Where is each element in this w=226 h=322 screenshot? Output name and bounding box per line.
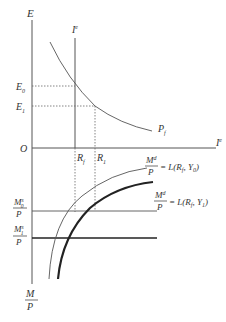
e0-label: E0 bbox=[15, 81, 25, 94]
svg-text:P: P bbox=[147, 167, 154, 177]
r1-label: R1 bbox=[96, 152, 106, 165]
e-axis-label: E bbox=[26, 7, 34, 19]
exchange-rate-money-market-diagram: E O Ie Ie E0 E1 Rf R1 Pf Md P = L(Rf, Y0… bbox=[0, 0, 226, 322]
ie-line-label: Ie bbox=[71, 24, 78, 35]
ms0-label: Ms0 P bbox=[13, 197, 27, 219]
svg-text:= L(Rf, Y1): = L(Rf, Y1) bbox=[169, 197, 208, 208]
origin-label: O bbox=[20, 143, 27, 154]
svg-text:P: P bbox=[15, 209, 22, 219]
mp-axis-label: M P bbox=[25, 288, 38, 312]
pf-curve bbox=[50, 42, 152, 131]
svg-text:Md: Md bbox=[154, 190, 167, 200]
svg-text:Ms0: Ms0 bbox=[13, 197, 24, 209]
svg-text:P: P bbox=[15, 237, 22, 247]
svg-text:P: P bbox=[26, 301, 33, 312]
ms1-label: Ms1 P bbox=[13, 224, 27, 247]
svg-text:M: M bbox=[25, 288, 35, 299]
svg-text:P: P bbox=[156, 202, 163, 212]
rf-label: Rf bbox=[76, 152, 86, 165]
e1-label: E1 bbox=[15, 101, 25, 114]
pf-label: Pf bbox=[157, 123, 167, 136]
svg-text:Ms1: Ms1 bbox=[13, 224, 24, 236]
md-y1-label: Md P = L(Rf, Y1) bbox=[154, 190, 208, 212]
svg-text:Md: Md bbox=[145, 155, 158, 165]
md-y1-curve bbox=[58, 182, 153, 279]
horizontal-axis-label: Ie bbox=[215, 137, 222, 148]
md-y0-label: Md P = L(Rf, Y0) bbox=[145, 155, 199, 177]
md-y0-curve bbox=[49, 168, 147, 279]
svg-text:= L(Rf, Y0): = L(Rf, Y0) bbox=[160, 162, 199, 173]
